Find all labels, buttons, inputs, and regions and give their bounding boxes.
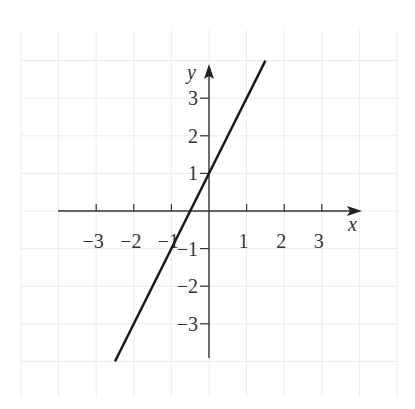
- y-tick-label: −1: [177, 238, 198, 260]
- coordinate-plane: −3−2−1123321−1−2−3 x y: [0, 0, 415, 409]
- x-tick-label: 1: [239, 230, 249, 252]
- y-tick-label: −3: [177, 313, 198, 335]
- y-tick-label: 3: [188, 87, 198, 109]
- x-tick-label: 3: [314, 230, 324, 252]
- x-tick-label: 2: [276, 230, 286, 252]
- y-tick-label: 1: [188, 162, 198, 184]
- axes: [58, 64, 362, 358]
- x-tick-label: −2: [120, 230, 141, 252]
- y-tick-label: −2: [177, 275, 198, 297]
- y-axis-label: y: [185, 61, 196, 84]
- x-tick-label: −3: [83, 230, 104, 252]
- y-tick-label: 2: [188, 125, 198, 147]
- x-axis-label: x: [347, 213, 357, 235]
